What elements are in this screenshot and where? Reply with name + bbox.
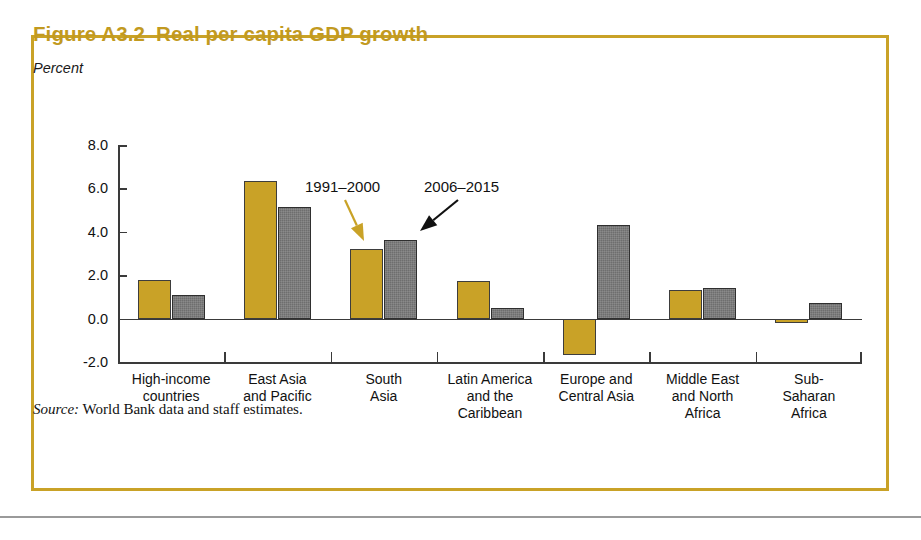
x-axis-separator-tick — [649, 352, 651, 362]
series-annotation-label: 2006–2015 — [424, 178, 499, 195]
category-label-line: and North — [643, 388, 761, 405]
category-label-line: and the — [431, 388, 549, 405]
bar-series-b — [597, 225, 630, 318]
bar-series-a — [669, 290, 702, 318]
zero-baseline — [118, 319, 862, 321]
annotation-arrow-head — [420, 215, 437, 231]
category-label-line: High-income — [112, 371, 230, 388]
category-label-line: Caribbean — [431, 405, 549, 422]
category-label-line: Asia — [325, 388, 443, 405]
y-axis-tick-label: 2.0 — [54, 267, 108, 283]
category-label-line: South — [325, 371, 443, 388]
bar-series-b — [703, 288, 736, 318]
category-label-line: Africa — [643, 405, 761, 422]
category-label-line: Latin America — [431, 371, 549, 388]
category-label-line: Africa — [750, 405, 868, 422]
x-axis-category-label: Sub-SaharanAfrica — [750, 371, 868, 422]
x-axis-separator-tick — [543, 352, 545, 362]
annotation-arrow-shaft — [433, 200, 458, 220]
source-label: Source: — [33, 401, 79, 417]
bar-series-a — [350, 249, 383, 318]
bar-series-b — [809, 303, 842, 318]
x-axis-separator-tick — [331, 352, 333, 362]
y-axis-tick-label: 0.0 — [54, 311, 108, 327]
y-axis-tick-label: -2.0 — [54, 354, 108, 370]
series-annotation-label: 1991–2000 — [305, 178, 380, 195]
y-axis-tick-mark — [118, 145, 127, 147]
category-label-line: Middle East — [643, 371, 761, 388]
y-axis-tick-label: 6.0 — [54, 180, 108, 196]
x-axis-category-label: Middle Eastand NorthAfrica — [643, 371, 761, 422]
x-axis-separator-tick — [756, 352, 758, 362]
annotation-arrow-shaft — [345, 200, 357, 226]
annotation-arrow-layer — [0, 0, 921, 540]
x-axis-category-label: High-incomecountries — [112, 371, 230, 405]
y-axis-line — [118, 145, 120, 362]
category-label-line: Saharan — [750, 388, 868, 405]
x-axis-category-label: SouthAsia — [325, 371, 443, 405]
annotation-arrow-head — [351, 223, 364, 241]
bar-series-b — [172, 295, 205, 319]
y-axis-tick-label: 4.0 — [54, 224, 108, 240]
y-axis-tick-mark — [118, 275, 127, 277]
bar-series-a — [457, 281, 490, 319]
x-axis-start-tick — [118, 352, 120, 362]
bar-series-a — [138, 280, 171, 319]
source-note: Source: World Bank data and staff estima… — [33, 401, 303, 418]
y-axis-tick-mark — [118, 362, 127, 364]
category-label-line: Europe and — [537, 371, 655, 388]
x-axis-end-tick — [860, 352, 862, 362]
x-axis-separator-tick — [224, 352, 226, 362]
x-axis-separator-tick — [437, 352, 439, 362]
bar-series-b — [384, 240, 417, 318]
category-label-line: Central Asia — [537, 388, 655, 405]
page-bottom-rule — [0, 516, 921, 518]
bar-series-a — [563, 319, 596, 356]
chart-plot-area: 8.06.04.02.00.0-2.0High-incomecountriesE… — [0, 0, 921, 540]
x-axis-category-label: Europe andCentral Asia — [537, 371, 655, 405]
y-axis-tick-mark — [118, 232, 127, 234]
source-text: World Bank data and staff estimates. — [83, 401, 303, 417]
y-axis-tick-mark — [118, 188, 127, 190]
x-axis-category-label: Latin Americaand theCaribbean — [431, 371, 549, 422]
x-axis-line — [118, 362, 862, 364]
x-axis-category-label: East Asiaand Pacific — [218, 371, 336, 405]
category-label-line: East Asia — [218, 371, 336, 388]
bar-series-a — [244, 181, 277, 319]
y-axis-tick-label: 8.0 — [54, 137, 108, 153]
bar-series-b — [278, 207, 311, 319]
bar-series-b — [491, 308, 524, 319]
category-label-line: Sub- — [750, 371, 868, 388]
bar-series-a — [775, 319, 808, 323]
